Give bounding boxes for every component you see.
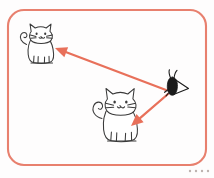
cat-top-left-eye-left bbox=[36, 33, 38, 36]
cat-bottom-head bbox=[105, 89, 136, 116]
corner-dot bbox=[201, 170, 203, 172]
corner-dot bbox=[195, 170, 197, 172]
corner-dot bbox=[189, 170, 191, 172]
cat-top-left-head bbox=[30, 24, 53, 43]
scene-canvas bbox=[0, 0, 214, 178]
corner-dot bbox=[207, 170, 209, 172]
cat-bottom-eye-left bbox=[113, 101, 116, 104]
cat-top-left-eye-right bbox=[44, 33, 46, 36]
cat-bottom-eye-right bbox=[125, 101, 128, 104]
illustration-panel bbox=[0, 0, 214, 178]
